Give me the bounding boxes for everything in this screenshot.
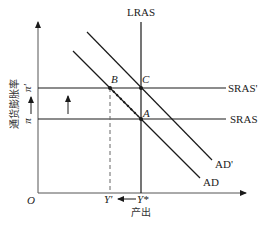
y-prime-tick: Y' [104, 193, 113, 205]
y-axis-label: 通货膨胀率 [8, 79, 20, 129]
pi-prime-tick: π' [21, 83, 33, 92]
point-b [108, 86, 112, 90]
ad-line [73, 51, 200, 178]
ad-as-diagram: LRAS SRAS' SRAS AD' AD B C A O Y' Y* 产出 … [0, 0, 265, 228]
pi-tick: π [21, 118, 33, 124]
ad-new-label: AD' [215, 158, 233, 170]
sras-label: SRAS [230, 113, 258, 125]
point-b-label: B [111, 73, 118, 85]
x-axis-label: 产出 [131, 206, 151, 218]
point-c [139, 86, 143, 90]
point-c-label: C [142, 73, 150, 85]
sras-new-label: SRAS' [228, 82, 258, 94]
lras-label: LRAS [127, 6, 155, 18]
ad-new-line [87, 32, 212, 160]
origin-label: O [27, 194, 35, 206]
ad-label: AD [203, 176, 219, 188]
y-star-tick: Y* [137, 193, 149, 205]
point-a-label: A [142, 107, 150, 119]
